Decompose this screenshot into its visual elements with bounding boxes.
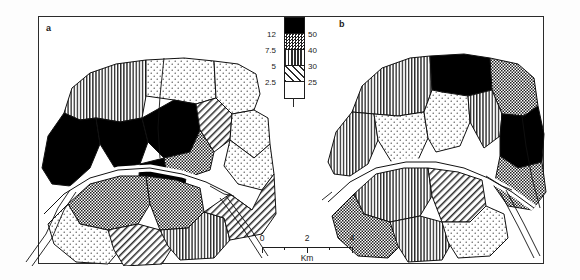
district bbox=[424, 90, 470, 152]
scalebar-label-4: 4 bbox=[350, 234, 355, 243]
scalebar: 0 2 4 Km bbox=[256, 234, 364, 264]
legend-stem bbox=[293, 98, 294, 107]
legend-swatch-solid-black bbox=[285, 18, 304, 34]
legend-right-label-50: 50 bbox=[308, 31, 317, 39]
scalebar-tick-4 bbox=[352, 247, 353, 253]
district bbox=[374, 112, 428, 166]
district bbox=[146, 58, 216, 104]
legend-right-label-25: 25 bbox=[308, 79, 317, 87]
figure-canvas: a b bbox=[0, 0, 580, 280]
map-panel-a bbox=[24, 18, 286, 266]
legend-right-label-40: 40 bbox=[308, 47, 317, 55]
scalebar-unit-label: Km bbox=[301, 254, 314, 263]
legend-left-label-7-5: 7.5 bbox=[265, 47, 276, 55]
district bbox=[96, 118, 148, 170]
legend-swatch-fine-dots bbox=[285, 82, 304, 98]
legend: 12 7.5 5 2.5 50 40 30 25 bbox=[252, 14, 334, 106]
scalebar-tick-1 bbox=[284, 247, 285, 250]
legend-swatch-vertical-lines bbox=[285, 50, 304, 66]
legend-left-label-2-5: 2.5 bbox=[265, 79, 276, 87]
legend-swatch-column bbox=[284, 17, 305, 99]
scalebar-tick-0 bbox=[262, 247, 263, 253]
legend-right-label-30: 30 bbox=[308, 63, 317, 71]
legend-swatch-diagonal-hatch bbox=[285, 66, 304, 82]
scalebar-tick-3 bbox=[329, 247, 330, 250]
scalebar-label-0: 0 bbox=[260, 234, 265, 243]
district bbox=[64, 60, 146, 122]
district bbox=[352, 56, 432, 116]
district bbox=[328, 112, 378, 176]
legend-left-label-5: 5 bbox=[272, 63, 276, 71]
map-panel-b bbox=[318, 16, 568, 264]
scalebar-label-2: 2 bbox=[305, 234, 310, 243]
legend-left-label-12: 12 bbox=[267, 31, 276, 39]
district bbox=[430, 54, 492, 96]
legend-swatch-dark-stipple bbox=[285, 34, 304, 50]
